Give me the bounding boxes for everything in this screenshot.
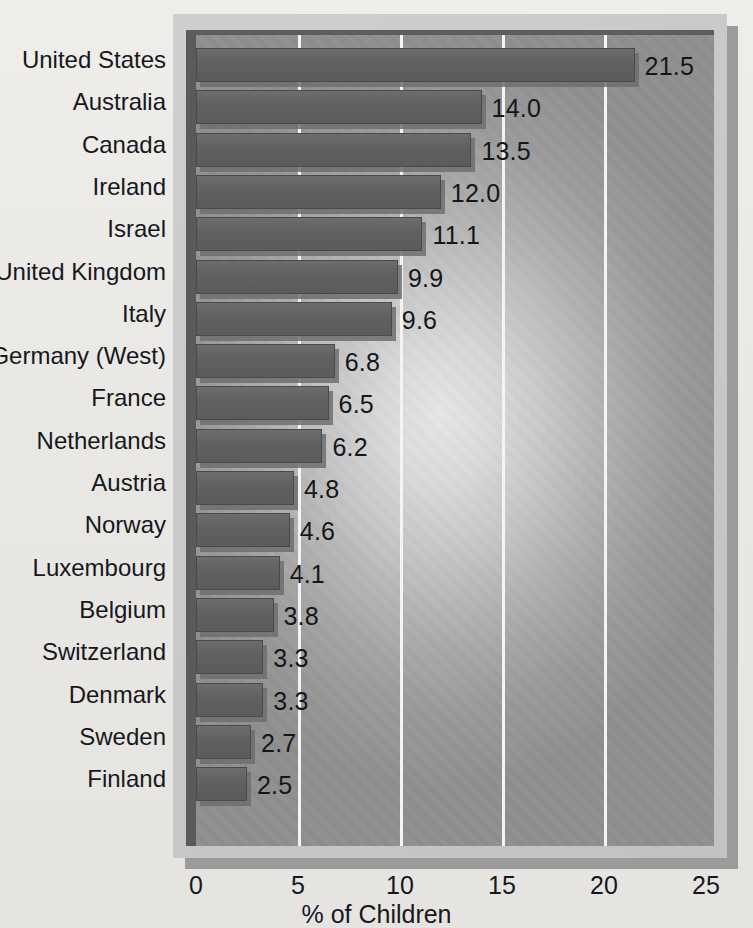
bar[interactable] bbox=[196, 386, 329, 420]
category-label: Italy bbox=[122, 302, 166, 326]
bar[interactable] bbox=[196, 640, 263, 674]
bar-value-label: 3.8 bbox=[284, 602, 319, 631]
x-tick-label: 25 bbox=[692, 871, 720, 900]
category-label: Belgium bbox=[79, 598, 166, 622]
x-axis-title: % of Children bbox=[0, 900, 753, 928]
bars-layer: 21.514.013.512.011.19.99.66.86.56.24.84.… bbox=[196, 35, 714, 846]
category-label: Australia bbox=[73, 90, 166, 114]
bar[interactable] bbox=[196, 556, 280, 590]
bar-value-label: 13.5 bbox=[481, 137, 530, 166]
bar[interactable] bbox=[196, 175, 441, 209]
x-tick-label: 10 bbox=[386, 871, 414, 900]
bar-value-label: 14.0 bbox=[492, 94, 541, 123]
bar[interactable] bbox=[196, 725, 251, 759]
category-label: Ireland bbox=[93, 175, 166, 199]
bar-value-label: 9.9 bbox=[408, 264, 443, 293]
bar-value-label: 9.6 bbox=[402, 306, 437, 335]
category-label: Luxembourg bbox=[33, 556, 166, 580]
bar[interactable] bbox=[196, 302, 392, 336]
bar[interactable] bbox=[196, 344, 335, 378]
category-label: Canada bbox=[82, 133, 166, 157]
bar[interactable] bbox=[196, 767, 247, 801]
category-label: Norway bbox=[85, 513, 166, 537]
bar-value-label: 2.5 bbox=[257, 771, 292, 800]
bar-value-label: 4.8 bbox=[304, 475, 339, 504]
bar-value-label: 6.2 bbox=[332, 433, 367, 462]
bar-value-label: 21.5 bbox=[645, 52, 694, 81]
bar-value-label: 12.0 bbox=[451, 179, 500, 208]
x-tick-label: 0 bbox=[189, 871, 203, 900]
bar-value-label: 4.1 bbox=[290, 560, 325, 589]
bar-value-label: 6.5 bbox=[339, 390, 374, 419]
category-label: Austria bbox=[91, 471, 166, 495]
category-axis-labels: United StatesAustraliaCanadaIrelandIsrae… bbox=[0, 30, 176, 846]
category-label: Switzerland bbox=[42, 640, 166, 664]
category-label: Sweden bbox=[79, 725, 166, 749]
bar[interactable] bbox=[196, 90, 482, 124]
bar-value-label: 6.8 bbox=[345, 348, 380, 377]
category-label: United States bbox=[22, 48, 166, 72]
x-tick-label: 15 bbox=[488, 871, 516, 900]
bar-value-label: 3.3 bbox=[273, 644, 308, 673]
bar[interactable] bbox=[196, 133, 471, 167]
bar[interactable] bbox=[196, 471, 294, 505]
bar[interactable] bbox=[196, 260, 398, 294]
bar[interactable] bbox=[196, 48, 635, 82]
category-label: Germany (West) bbox=[0, 344, 166, 368]
category-label: Israel bbox=[107, 217, 166, 241]
bar[interactable] bbox=[196, 683, 263, 717]
category-label: Finland bbox=[87, 767, 166, 791]
x-tick-label: 5 bbox=[291, 871, 305, 900]
bar[interactable] bbox=[196, 598, 274, 632]
bar-chart: 21.514.013.512.011.19.99.66.86.56.24.84.… bbox=[0, 0, 753, 928]
bar-value-label: 2.7 bbox=[261, 729, 296, 758]
category-label: United Kingdom bbox=[0, 260, 166, 284]
bar-value-label: 4.6 bbox=[300, 517, 335, 546]
bar[interactable] bbox=[196, 429, 322, 463]
x-tick-label: 20 bbox=[590, 871, 618, 900]
bar[interactable] bbox=[196, 513, 290, 547]
category-label: Netherlands bbox=[37, 429, 166, 453]
bar[interactable] bbox=[196, 217, 422, 251]
bar-value-label: 3.3 bbox=[273, 687, 308, 716]
category-label: Denmark bbox=[69, 683, 166, 707]
bar-value-label: 11.1 bbox=[432, 221, 480, 250]
plot-area: 21.514.013.512.011.19.99.66.86.56.24.84.… bbox=[186, 30, 714, 846]
category-label: France bbox=[91, 386, 166, 410]
